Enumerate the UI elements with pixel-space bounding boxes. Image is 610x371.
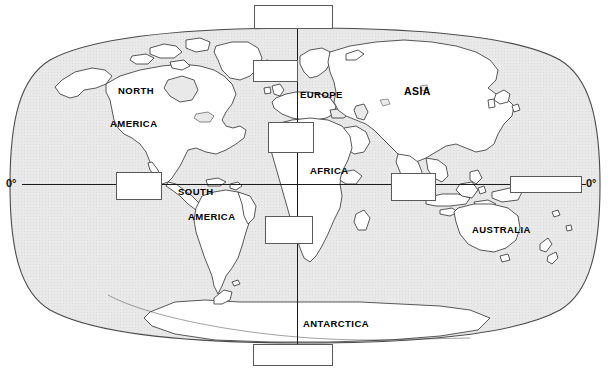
label-south-america-line2: AMERICA (188, 211, 235, 222)
answer-box-pacific-west[interactable] (510, 176, 582, 193)
world-map-worksheet: 0° 0° NORTH AMERICA SOUTH AMERICA EUROPE… (0, 0, 610, 371)
label-north-america-line2: AMERICA (110, 118, 157, 129)
equator-line (22, 184, 586, 186)
answer-box-indian-ocean[interactable] (391, 173, 436, 201)
label-africa: AFRICA (310, 165, 349, 176)
answer-box-bottom[interactable] (253, 344, 333, 366)
label-north-america-line1: NORTH (118, 85, 154, 96)
label-europe: EUROPE (300, 89, 343, 100)
answer-box-pacific-east[interactable] (116, 172, 162, 200)
answer-box-mediterranean[interactable] (268, 122, 314, 153)
equator-label-left: 0° (6, 177, 17, 189)
label-antarctica: ANTARCTICA (303, 318, 369, 329)
equator-label-right: 0° (586, 177, 597, 189)
label-asia: ASIA (404, 85, 431, 97)
answer-box-north-atlantic[interactable] (253, 60, 298, 82)
label-australia: AUSTRALIA (472, 224, 531, 235)
answer-box-top[interactable] (254, 5, 333, 29)
label-south-america-line1: SOUTH (178, 186, 214, 197)
answer-box-south-atlantic[interactable] (265, 216, 313, 244)
